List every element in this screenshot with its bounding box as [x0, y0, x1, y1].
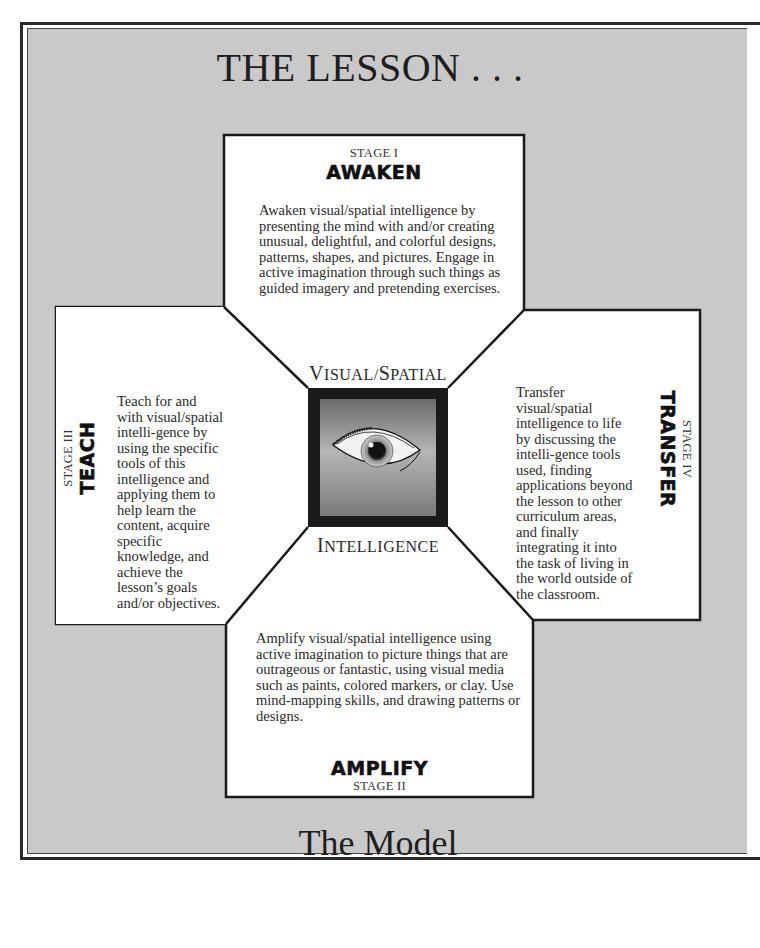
stage-amplify-description: Amplify visual/spatial intelligence usin…: [256, 631, 522, 724]
stage-name: AWAKEN: [224, 161, 524, 183]
stage-amplify-header: AMPLIFY STAGE II: [226, 757, 533, 794]
center-label-visual-spatial: VISUAL/SPATIAL: [300, 362, 456, 385]
stage-number: STAGE III: [61, 403, 76, 513]
stage-awaken-header: STAGE I AWAKEN: [224, 146, 524, 183]
stage-name: AMPLIFY: [226, 757, 533, 779]
eye-icon: [308, 388, 448, 527]
stage-name: TRANSFER: [657, 389, 679, 509]
stage-number: STAGE I: [224, 146, 524, 161]
stage-transfer-header: STAGE IV TRANSFER: [650, 389, 694, 509]
stage-teach-description: Teach for and with visual/spatial intell…: [117, 394, 225, 611]
diagram-caption: The Model: [0, 822, 756, 864]
stage-number: STAGE IV: [679, 389, 694, 509]
stage-teach-header: STAGE III TEACH: [61, 403, 105, 513]
stage-number: STAGE II: [226, 779, 533, 794]
stage-name: TEACH: [76, 403, 98, 513]
center-label-intelligence: INTELLIGENCE: [300, 534, 456, 557]
stage-transfer-description: Transfer visual/spatial intelligence to …: [516, 385, 636, 602]
stage-awaken-description: Awaken visual/spatial intelligence by pr…: [259, 203, 521, 296]
